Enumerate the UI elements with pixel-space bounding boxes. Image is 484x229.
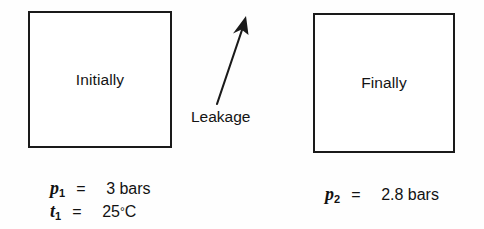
final-state-properties: p2 = 2.8 bars [325,184,439,207]
symbol-p2: p2 [325,184,340,207]
state-line-p2: p2 = 2.8 bars [325,184,439,207]
equals-p1: = [65,178,106,199]
degree-sign-t1: ° [120,202,125,223]
up-right-arrow-icon [196,8,264,112]
equals-p2: = [340,184,381,205]
final-vessel-label: Finally [361,74,407,92]
state-line-p1: p1 = 3 bars [50,178,151,201]
symbol-p1: p1 [50,178,65,201]
final-vessel: Finally [313,13,455,153]
equals-t1: = [61,201,102,222]
symbol-t1: t1 [50,201,61,224]
initial-vessel-label: Initially [76,71,124,89]
value-t1: 25 [102,201,120,222]
initial-vessel: Initially [28,11,172,148]
unit-t1: C [125,201,137,222]
value-p1: 3 bars [106,178,150,199]
value-p2: 2.8 bars [381,184,439,205]
leakage-label: Leakage [191,108,250,126]
leakage-diagram: Initially Finally Leakage p1 = 3 bars t1… [0,0,484,229]
initial-state-properties: p1 = 3 bars t1 = 25°C [50,178,151,224]
state-line-t1: t1 = 25°C [50,201,151,224]
